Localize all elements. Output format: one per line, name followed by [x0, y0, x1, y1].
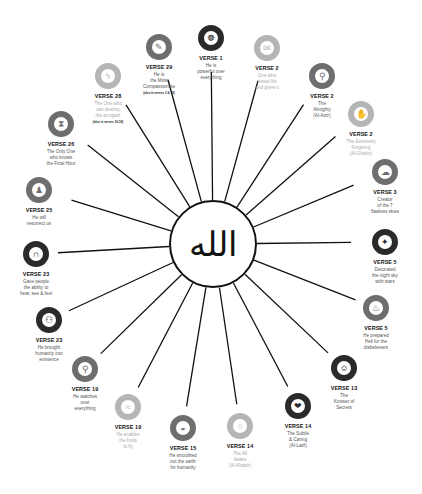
- ray-line: [138, 283, 192, 387]
- verse-description: He watchesovereverything: [55, 394, 115, 412]
- lightbulb-icon: ☼: [236, 422, 244, 431]
- verse-node: ☁VERSE 3Creatorof the 7flawless skies: [355, 159, 415, 215]
- ray-line: [71, 200, 171, 231]
- verse-label: VERSE 5: [355, 259, 415, 265]
- clouds-icon: ☁: [381, 168, 390, 177]
- senses-icon: ∩: [33, 250, 39, 259]
- handshake-icon: ✎: [155, 43, 163, 52]
- ray-line: [88, 145, 179, 217]
- verse-node: ∩VERSE 23Gave peoplethe ability tohear, …: [6, 241, 66, 297]
- verse-description: He preparedHell for thedisbelievers: [346, 333, 406, 351]
- fire-icon: ♨: [372, 304, 380, 313]
- verse-node: ☼VERSE 14The AllAware(Al-Khabir): [210, 413, 270, 469]
- verse-icon-ring: ✎: [146, 34, 172, 60]
- verse-label: VERSE 13: [314, 385, 374, 391]
- verse-icon-ring: ◒: [170, 415, 196, 441]
- verse-label: VERSE 19: [55, 386, 115, 392]
- verse-node: ☸VERSE 1He ispowerful overeverything: [181, 25, 241, 81]
- verse-node: ✋VERSE 2The ExtremelyForgiving(Al-Ghafur…: [331, 101, 391, 157]
- verse-description-line: flawless skies: [355, 209, 415, 215]
- verse-label: VERSE 19: [98, 424, 158, 430]
- verse-icon-ring: ☼: [227, 413, 253, 439]
- verse-icon-ring: ✦: [372, 229, 398, 255]
- verse-description: The Only Onewho knowsthe Final Hour: [31, 149, 91, 167]
- verse-description-line: the Final Hour: [31, 161, 91, 167]
- verse-icon-ring: ☺: [331, 355, 357, 381]
- verse-label: VERSE 14: [210, 443, 270, 449]
- verse-description-line: everything: [55, 406, 115, 412]
- bird-icon: ≈: [126, 403, 131, 412]
- verse-description-line: and gives it: [237, 85, 297, 91]
- ray-line: [254, 185, 354, 227]
- hand-icon: ✋: [356, 110, 367, 119]
- verse-description-line: (Al-Latif): [268, 443, 328, 449]
- center-circle: الله: [169, 200, 257, 288]
- mind-icon: ☸: [207, 34, 215, 43]
- earth-icon: ◒: [180, 424, 185, 433]
- verse-label: VERSE 25: [9, 207, 69, 213]
- verse-label: VERSE 2: [237, 65, 297, 71]
- lightning-icon: ϟ: [106, 72, 111, 81]
- verse-description-line: with stars: [355, 279, 415, 285]
- verse-node: ♨VERSE 5He preparedHell for thedisbeliev…: [346, 295, 406, 351]
- verse-label: VERSE 3: [355, 189, 415, 195]
- ray-line: [187, 287, 206, 406]
- verse-label: VERSE 2: [331, 131, 391, 137]
- verse-description: The ExtremelyForgiving(Al-Ghafur): [331, 139, 391, 157]
- verse-icon-ring: ♟: [26, 177, 52, 203]
- verse-description: He ispowerful overeverything: [181, 63, 241, 81]
- verse-icon-ring: ⚇: [36, 307, 62, 333]
- verse-diagram: الله ☸VERSE 1He ispowerful overeverythin…: [0, 0, 422, 494]
- verse-description: Gave peoplethe ability tohear, see & fee…: [6, 279, 66, 297]
- verse-description: He smoothedout the earthfor humanity: [153, 453, 213, 471]
- verse-icon-ring: ☸: [198, 25, 224, 51]
- verse-description: He isthe MostCompassionate: [129, 72, 189, 90]
- verse-description: He broughthumanity intoexistence: [19, 345, 79, 363]
- ray-line: [211, 72, 212, 200]
- verse-description-line: Compassionate: [129, 84, 189, 90]
- verse-note: (also in verses 16-18): [78, 120, 138, 124]
- ray-line: [69, 263, 173, 311]
- verse-description-line: disbelievers: [346, 345, 406, 351]
- ray-line: [246, 136, 335, 215]
- magnifier-icon: ⚲: [82, 365, 89, 374]
- head-icon: ☺: [339, 364, 348, 373]
- verse-label: VERSE 15: [153, 445, 213, 451]
- verse-note: (also in verses 3 & 19): [129, 91, 189, 95]
- magnifier-icon: ⚲: [319, 72, 326, 81]
- ray-line: [257, 242, 351, 243]
- stars-icon: ✦: [381, 238, 389, 247]
- verse-icon-ring: ≈: [115, 394, 141, 420]
- verse-node: ⚇VERSE 23He broughthumanity intoexistenc…: [19, 307, 79, 363]
- people-icon: ⚇: [45, 316, 53, 325]
- verse-description-line: to fly: [98, 444, 158, 450]
- verse-description: The AllAware(Al-Khabir): [210, 451, 270, 469]
- verse-description: One whotested lifeand gives it: [237, 73, 297, 91]
- ray-line: [58, 246, 169, 252]
- verse-icon-ring: ☁: [372, 159, 398, 185]
- verse-node: ✎VERSE 29He isthe MostCompassionate(also…: [129, 34, 189, 95]
- verse-description: The One whocan destroythe arrogant: [78, 101, 138, 119]
- verse-icon-ring: ∩: [23, 241, 49, 267]
- ray-line: [168, 80, 201, 202]
- verse-icon-ring: ⧗: [48, 111, 74, 137]
- resurrection-icon: ♟: [35, 186, 43, 195]
- ray-line: [233, 283, 287, 387]
- heart-hand-icon: ❤: [294, 402, 302, 411]
- verse-node: ❤VERSE 14The Subtle& Caring(Al-Latif): [268, 393, 328, 449]
- verse-description: Creatorof the 7flawless skies: [355, 197, 415, 215]
- verse-label: VERSE 2: [292, 93, 352, 99]
- verse-icon-ring: ♨: [363, 295, 389, 321]
- ray-line: [101, 275, 182, 354]
- verse-description: He willresurrect us: [9, 215, 69, 227]
- verse-label: VERSE 5: [346, 325, 406, 331]
- verse-node: ⚲VERSE 19He watchesovereverything: [55, 356, 115, 412]
- verse-icon-ring: ✋: [348, 101, 374, 127]
- verse-label: VERSE 26: [31, 141, 91, 147]
- verse-node: ♟VERSE 25He willresurrect us: [9, 177, 69, 227]
- verse-icon-ring: ϟ: [95, 63, 121, 89]
- verse-description-line: hear, see & feel: [6, 291, 66, 297]
- verse-label: VERSE 14: [268, 423, 328, 429]
- ray-line: [254, 260, 356, 300]
- verse-label: VERSE 29: [129, 64, 189, 70]
